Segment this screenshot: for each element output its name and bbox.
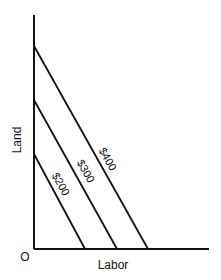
isocost-diagram (0, 0, 221, 280)
y-axis-label: Land (10, 127, 24, 154)
isocost-line-300 (34, 100, 117, 249)
isocost-line-400 (34, 46, 148, 249)
x-axis-label: Labor (98, 258, 129, 272)
origin-label: O (20, 250, 29, 264)
